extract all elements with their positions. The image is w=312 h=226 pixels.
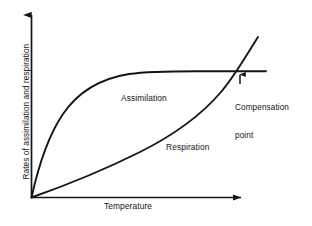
compensation-point-label-line1: Compensation [235,103,309,112]
respiration-curve [32,37,259,198]
compensation-point-label-line2: point [235,131,309,140]
compensation-point-label: Compensation point [235,85,309,159]
x-axis-label: Temperature [88,202,168,211]
assimilation-curve-label: Assimilation [121,94,167,103]
assimilation-curve [32,71,267,197]
figure-root: Rates of assimilation and respiration Te… [0,0,312,226]
respiration-curve-label: Respiration [166,143,209,152]
y-axis-label: Rates of assimilation and respiration [22,22,31,202]
